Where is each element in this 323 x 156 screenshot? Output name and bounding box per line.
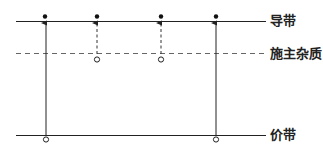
valence-band-label: 价带 [270, 128, 296, 141]
conduction-band-label: 导带 [270, 14, 296, 27]
ionized-donor-circle [158, 57, 163, 62]
hole-circle [43, 137, 48, 142]
hole-circle [213, 137, 218, 142]
donor-level-label: 施主杂质 [270, 47, 322, 60]
electron-dot [214, 14, 218, 18]
electron-dot [159, 14, 163, 18]
electron-dot [95, 14, 99, 18]
ionized-donor-circle [94, 57, 99, 62]
electron-dot [43, 14, 47, 18]
